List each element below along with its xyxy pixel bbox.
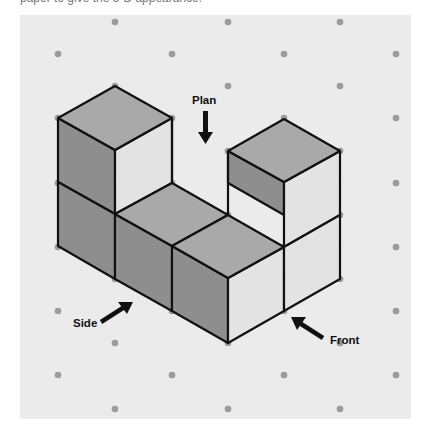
side-arrow-icon — [101, 302, 133, 322]
cube-shapes — [58, 86, 340, 343]
front-label: Front — [330, 334, 360, 346]
side-label: Side — [73, 317, 97, 329]
front-arrow-icon — [291, 317, 323, 338]
plan-label: Plan — [192, 94, 216, 106]
plan-arrow-icon — [198, 111, 213, 144]
isometric-drawing: Plan Side Front — [0, 0, 429, 436]
